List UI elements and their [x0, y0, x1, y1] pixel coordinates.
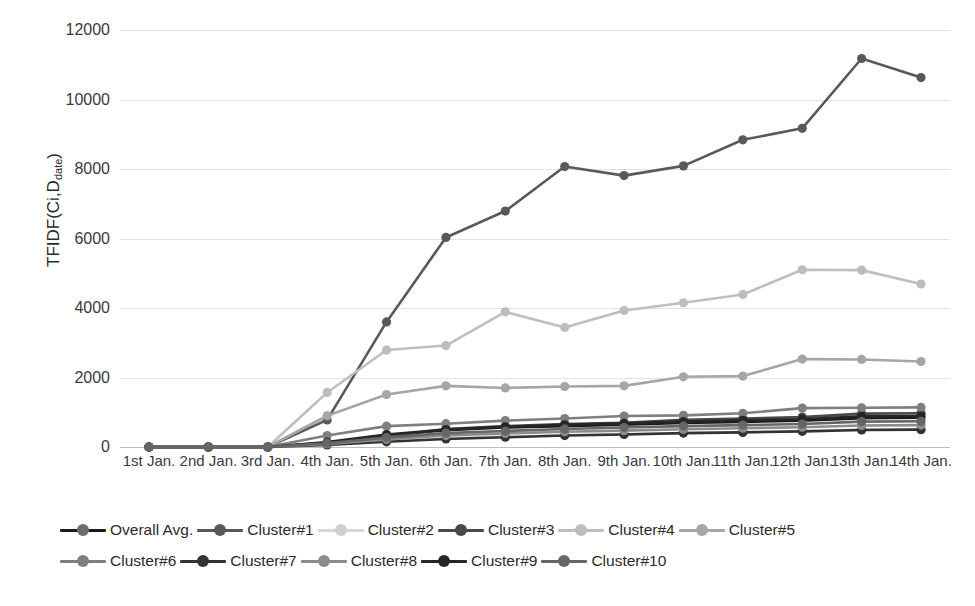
legend-row: Cluster#6Cluster#7Cluster#8Cluster#9Clus… — [60, 552, 960, 583]
data-point — [204, 442, 213, 451]
y-axis-title-main: TFIDF(Ci,D — [44, 180, 63, 267]
x-axis-tick-label: 4th Jan. — [294, 452, 360, 471]
legend-item[interactable]: Cluster#3 — [438, 521, 554, 539]
chart-legend: Overall Avg.Cluster#1Cluster#2Cluster#3C… — [60, 521, 960, 583]
data-point — [798, 265, 807, 274]
data-point — [501, 426, 510, 435]
legend-swatch-icon — [438, 522, 484, 538]
x-axis-tick-label: 12th Jan. — [769, 452, 835, 471]
data-point — [679, 422, 688, 431]
y-axis-tick-label: 2000 — [18, 370, 110, 386]
legend-swatch-icon — [421, 553, 467, 569]
x-axis-tick-label: 11th Jan. — [710, 452, 776, 471]
legend-label: Cluster#3 — [488, 521, 554, 539]
x-axis-tick-label: 9th Jan. — [591, 452, 657, 471]
x-axis-tick-label: 5th Jan. — [354, 452, 420, 471]
data-point — [679, 372, 688, 381]
data-point — [560, 382, 569, 391]
data-point — [560, 162, 569, 171]
data-point — [323, 411, 332, 420]
legend-label: Cluster#7 — [230, 552, 296, 570]
x-axis-tick-label: 13th Jan. — [829, 452, 895, 471]
data-point — [263, 442, 272, 451]
x-axis-tick-label: 3rd Jan. — [235, 452, 301, 471]
data-point — [382, 345, 391, 354]
legend-item[interactable]: Cluster#6 — [60, 552, 176, 570]
data-point — [798, 419, 807, 428]
data-point — [441, 429, 450, 438]
data-point — [382, 422, 391, 431]
data-point — [679, 161, 688, 170]
plot-area: 020004000600080001000012000 — [120, 30, 950, 447]
y-axis-tick-label: 12000 — [18, 22, 110, 38]
series-layer — [120, 30, 950, 447]
data-point — [738, 290, 747, 299]
data-point — [738, 135, 747, 144]
data-point — [441, 381, 450, 390]
legend-item[interactable]: Cluster#5 — [679, 521, 795, 539]
data-point — [441, 233, 450, 242]
data-point — [382, 317, 391, 326]
x-axis-tick-label: 2nd Jan. — [175, 452, 241, 471]
series-line — [149, 58, 921, 447]
data-point — [916, 73, 925, 82]
legend-label: Cluster#5 — [729, 521, 795, 539]
data-point — [857, 266, 866, 275]
data-point — [738, 421, 747, 430]
legend-row: Overall Avg.Cluster#1Cluster#2Cluster#3C… — [60, 521, 960, 552]
data-point — [798, 354, 807, 363]
legend-label: Overall Avg. — [110, 521, 193, 539]
legend-item[interactable]: Cluster#10 — [541, 552, 666, 570]
legend-swatch-icon — [301, 553, 347, 569]
data-point — [382, 390, 391, 399]
data-point — [679, 298, 688, 307]
data-point — [857, 54, 866, 63]
x-axis-tick-label: 8th Jan. — [532, 452, 598, 471]
legend-label: Cluster#2 — [368, 521, 434, 539]
legend-item[interactable]: Cluster#1 — [197, 521, 313, 539]
legend-item[interactable]: Cluster#4 — [558, 521, 674, 539]
data-point — [916, 279, 925, 288]
series-10 — [144, 417, 925, 452]
data-point — [857, 355, 866, 364]
legend-item[interactable]: Cluster#8 — [301, 552, 417, 570]
data-point — [916, 403, 925, 412]
data-point — [798, 124, 807, 133]
series-1 — [144, 54, 925, 452]
data-point — [560, 323, 569, 332]
legend-swatch-icon — [679, 522, 725, 538]
legend-item[interactable]: Overall Avg. — [60, 521, 193, 539]
data-point — [916, 357, 925, 366]
data-point — [619, 171, 628, 180]
legend-label: Cluster#8 — [351, 552, 417, 570]
legend-item[interactable]: Cluster#2 — [318, 521, 434, 539]
data-point — [738, 372, 747, 381]
data-point — [798, 403, 807, 412]
legend-label: Cluster#10 — [591, 552, 666, 570]
chart-root: TFIDF(Ci,Ddate) 020004000600080001000012… — [0, 0, 975, 606]
x-axis-tick-label: 10th Jan. — [650, 452, 716, 471]
legend-item[interactable]: Cluster#7 — [180, 552, 296, 570]
legend-item[interactable]: Cluster#9 — [421, 552, 537, 570]
data-point — [501, 206, 510, 215]
data-point — [501, 383, 510, 392]
y-axis-tick-label: 8000 — [18, 161, 110, 177]
data-point — [619, 381, 628, 390]
legend-label: Cluster#1 — [247, 521, 313, 539]
data-point — [501, 307, 510, 316]
x-axis-tick-label: 14th Jan. — [888, 452, 954, 471]
legend-label: Cluster#6 — [110, 552, 176, 570]
data-point — [857, 417, 866, 426]
legend-swatch-icon — [60, 522, 106, 538]
x-axis-tick-label: 1st Jan. — [116, 452, 182, 471]
legend-label: Cluster#4 — [608, 521, 674, 539]
data-point — [441, 341, 450, 350]
data-point — [857, 403, 866, 412]
legend-swatch-icon — [318, 522, 364, 538]
data-point — [916, 417, 925, 426]
y-axis-tick-label: 10000 — [18, 92, 110, 108]
legend-swatch-icon — [180, 553, 226, 569]
data-point — [323, 388, 332, 397]
legend-swatch-icon — [541, 553, 587, 569]
x-axis-tick-label: 7th Jan. — [472, 452, 538, 471]
